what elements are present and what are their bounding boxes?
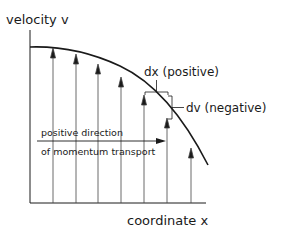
y-axis-label: velocity v bbox=[6, 12, 69, 27]
momentum-arrowhead bbox=[156, 138, 166, 144]
x-axis-label: coordinate x bbox=[127, 213, 208, 228]
dv-label: dv (negative) bbox=[186, 101, 266, 115]
momentum-label-line1: positive direction bbox=[41, 127, 123, 138]
velocity-profile-diagram: velocity v coordinate x dx (positive) dv… bbox=[0, 0, 282, 235]
momentum-label-line2: of momentum transport bbox=[41, 146, 156, 157]
dx-label: dx (positive) bbox=[144, 65, 219, 79]
